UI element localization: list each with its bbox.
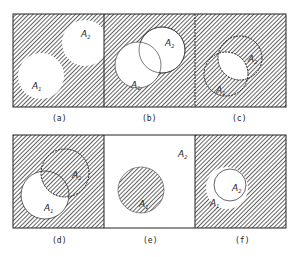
panel-a: A2 A1 bbox=[13, 14, 108, 107]
panel-c: A2 A1 bbox=[195, 14, 286, 107]
caption-b: (b) bbox=[142, 114, 156, 123]
set-a2-circle bbox=[62, 20, 108, 66]
set-a1-circle bbox=[115, 42, 161, 88]
panel-f: A2 A1 bbox=[195, 135, 286, 228]
panel-b: A2 A1 bbox=[104, 14, 195, 107]
venn-diagram-figure: A2 A1 A2 A1 A2 A1 (a) (b) (c) A bbox=[0, 0, 302, 257]
caption-a: (a) bbox=[52, 114, 66, 123]
caption-d: (d) bbox=[52, 236, 66, 245]
caption-f: (f) bbox=[235, 236, 249, 245]
panel-e: A2 A1 bbox=[104, 135, 195, 228]
caption-e: (e) bbox=[143, 236, 157, 245]
panel-d: A2 A1 bbox=[13, 135, 104, 228]
caption-c: (c) bbox=[232, 114, 246, 123]
set-a1-circle bbox=[18, 53, 64, 99]
a1-minus-a2-region bbox=[13, 135, 104, 228]
